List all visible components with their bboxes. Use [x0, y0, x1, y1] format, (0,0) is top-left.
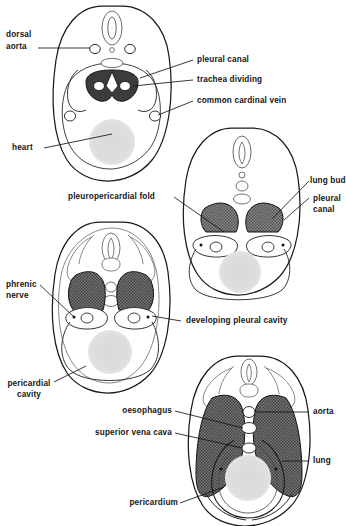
label-oesophagus: oesophagus: [100, 406, 172, 417]
label-pleural-canal-2-line1: pleural: [313, 194, 341, 205]
dorsal-aorta-right: [125, 44, 136, 53]
label-pericardial-cavity-line1: pericardial: [0, 379, 58, 390]
phrenic-nerve-dot-left-2: [200, 244, 203, 247]
foregut: [101, 58, 123, 67]
label-aorta: aorta: [313, 407, 334, 418]
phrenic-nerve-dot-right-3: [147, 316, 150, 319]
bronchus-left: [94, 81, 105, 90]
common-cardinal-vein-left: [64, 111, 75, 121]
heart-shape-3: [88, 330, 132, 374]
panel-1-early-embryo-section: [53, 6, 171, 181]
neural-canal-2: [239, 142, 245, 164]
phrenic-nerve-dot-right-2: [282, 244, 285, 247]
heart-shape: [89, 119, 135, 165]
phrenic-nerve-dot-right-4: [274, 467, 277, 470]
pleural-canal-right-2: [246, 203, 283, 232]
label-superior-vena-cava: superior vena cava: [62, 428, 172, 439]
label-heart: heart: [12, 143, 33, 154]
label-pericardial-cavity-line2: cavity: [0, 390, 58, 401]
label-pleuropericardial-fold: pleuropericardial fold: [68, 192, 155, 203]
aorta-3: [106, 282, 117, 292]
heart-shape-4: [225, 455, 271, 501]
oesophagus-3: [104, 296, 119, 307]
label-phrenic-nerve-line1: phrenic: [6, 280, 37, 291]
vertebral-body-3: [102, 258, 120, 271]
vertebral-body-4: [240, 384, 258, 397]
label-pleural-canal-2-line2: canal: [313, 205, 335, 216]
label-trachea-dividing: trachea dividing: [197, 75, 262, 86]
neural-canal: [108, 17, 116, 39]
label-pericardium: pericardium: [90, 498, 178, 509]
common-cardinal-vein-right-2: [262, 242, 274, 252]
neural-canal-3: [108, 238, 114, 260]
oesophagus-4: [242, 423, 257, 434]
label-dorsal-aorta-line2: aorta: [6, 42, 27, 53]
aorta-4: [243, 407, 255, 418]
common-cardinal-vein-left-2: [210, 242, 222, 252]
bronchus-right: [120, 81, 131, 90]
label-lung: lung: [313, 456, 331, 467]
common-cardinal-vein-right-3: [128, 313, 140, 323]
panel-2-lung-bud-section: [183, 128, 300, 300]
label-pleural-canal: pleural canal: [197, 55, 249, 66]
phrenic-nerve-dot-left-4: [219, 467, 222, 470]
label-common-cardinal-vein: common cardinal vein: [197, 96, 286, 107]
aorta-2: [236, 181, 248, 191]
pleural-canal-left-2: [201, 203, 238, 232]
neural-canal-4: [247, 364, 252, 382]
panel-3-pleuropericardial-fold-section: [52, 222, 170, 393]
heart-shape-2: [219, 251, 261, 293]
superior-vena-cava-4: [242, 443, 256, 453]
dorsal-aorta-left: [90, 44, 101, 53]
notochord-2: [239, 172, 245, 178]
common-cardinal-vein-right: [149, 111, 160, 121]
label-developing-pleural-cavity: developing pleural cavity: [186, 316, 288, 327]
panel-4-mature-pericardium-section: [188, 356, 310, 526]
label-phrenic-nerve-line2: nerve: [6, 291, 29, 302]
oesophagus-2: [234, 194, 251, 204]
label-lung-bud: lung bud: [310, 176, 346, 187]
label-dorsal-aorta-line1: dorsal: [6, 30, 31, 41]
common-cardinal-vein-left-3: [81, 313, 93, 323]
notochord: [110, 48, 115, 53]
